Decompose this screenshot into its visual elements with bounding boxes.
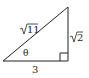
horizontal-leg-label: 3: [32, 64, 38, 75]
triangle-diagram: 11 2 θ 3: [0, 0, 89, 78]
right-angle-marker: [60, 53, 68, 61]
vertical-leg-label: 2: [70, 32, 83, 43]
hypotenuse-label: 11: [20, 24, 40, 35]
angle-label: θ: [23, 48, 28, 58]
svg-text:2: 2: [77, 32, 83, 43]
svg-text:11: 11: [27, 24, 40, 35]
